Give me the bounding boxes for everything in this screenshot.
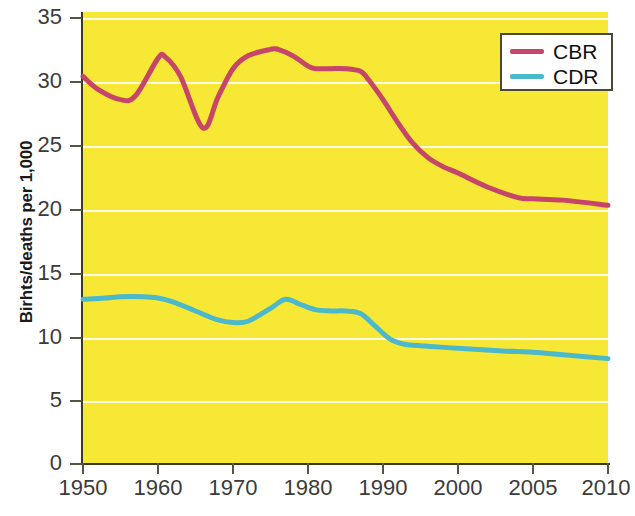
legend-label-cbr: CBR <box>553 41 597 62</box>
legend-item-cdr: CDR <box>510 64 599 88</box>
legend-label-cdr: CDR <box>553 66 599 87</box>
legend-swatch-cbr <box>510 49 544 54</box>
legend-swatch-cdr <box>510 74 544 79</box>
legend: CBR CDR <box>500 33 613 91</box>
line-series-cdr <box>83 297 608 359</box>
legend-item-cbr: CBR <box>510 39 597 63</box>
